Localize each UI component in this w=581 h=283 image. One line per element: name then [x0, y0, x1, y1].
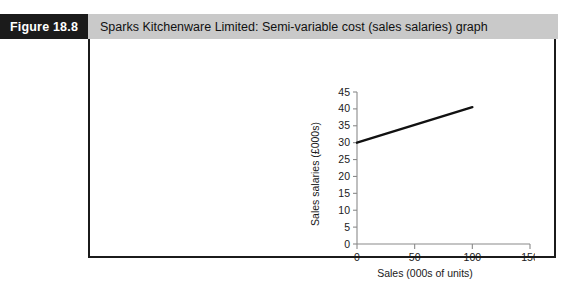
- y-tick-label: 40: [338, 102, 350, 114]
- chart-series-group: [357, 107, 472, 142]
- y-tick-label: 15: [338, 187, 350, 199]
- y-tick-label: 0: [344, 238, 350, 250]
- figure-title: Sparks Kitchenware Limited: Semi-variabl…: [100, 20, 488, 34]
- x-axis: 050100150: [354, 244, 535, 263]
- y-axis: 051015202530354045: [338, 86, 357, 250]
- y-tick-label: 30: [338, 136, 350, 148]
- figure-title-bar: Sparks Kitchenware Limited: Semi-variabl…: [88, 14, 558, 39]
- chart-series-line: [357, 107, 472, 142]
- y-axis-title: Sales salaries (£000s): [309, 122, 321, 226]
- x-tick-label: 50: [409, 251, 421, 263]
- chart-svg: 051015202530354045 050100150 Sales salar…: [305, 84, 535, 283]
- x-tick-label: 150: [521, 251, 535, 263]
- figure-label-box: Figure 18.8: [0, 14, 88, 39]
- y-tick-label: 5: [344, 221, 350, 233]
- y-tick-label: 25: [338, 153, 350, 165]
- x-axis-title: Sales (000s of units): [377, 267, 473, 279]
- figure-header: Figure 18.8 Sparks Kitchenware Limited: …: [0, 14, 558, 39]
- y-tick-label: 45: [338, 86, 350, 98]
- figure-body: 051015202530354045 050100150 Sales salar…: [88, 39, 556, 258]
- figure-label: Figure 18.8: [10, 20, 78, 34]
- y-tick-label: 10: [338, 204, 350, 216]
- x-tick-label: 100: [464, 251, 482, 263]
- y-tick-label: 20: [338, 170, 350, 182]
- x-tick-label: 0: [354, 251, 360, 263]
- line-chart: 051015202530354045 050100150 Sales salar…: [305, 84, 535, 283]
- y-tick-label: 35: [338, 119, 350, 131]
